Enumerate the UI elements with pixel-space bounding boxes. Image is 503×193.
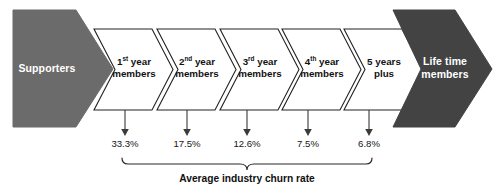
stage-line2-3: members	[229, 68, 291, 80]
funnel-diagram: Supporters Life time members 1st year me…	[0, 0, 503, 193]
stage-line2-5: plus	[353, 68, 415, 80]
churn-value-4: 7.5%	[283, 138, 333, 150]
churn-value-3: 12.6%	[222, 138, 272, 150]
churn-value-5: 6.8%	[344, 138, 394, 150]
stage-line1-3: 3rd year	[229, 56, 291, 68]
stage-tail-5: years	[373, 56, 401, 67]
supporters-label: Supporters	[13, 62, 81, 75]
stage-tail-4: year	[316, 56, 339, 67]
stage-label-4: 4th year members	[291, 56, 353, 80]
stage-label-5: 5 years plus	[353, 56, 415, 80]
stage-line1-5: 5 years	[353, 56, 415, 68]
stage-label-1: 1st year members	[103, 56, 165, 80]
stage-tail-2: year	[192, 56, 215, 67]
churn-arrows	[121, 110, 373, 136]
stage-line2-2: members	[166, 68, 228, 80]
stage-line2-4: members	[291, 68, 353, 80]
lifetime-members-line1: Life time	[412, 55, 478, 68]
diagram-shapes	[0, 0, 503, 193]
lifetime-members-label: Life time members	[412, 55, 478, 81]
stage-line1-2: 2nd year	[166, 56, 228, 68]
stage-line1-4: 4th year	[291, 56, 353, 68]
churn-value-1: 33.3%	[100, 138, 150, 150]
stage-line2-1: members	[103, 68, 165, 80]
stage-line1-1: 1st year	[103, 56, 165, 68]
lifetime-members-line2: members	[412, 68, 478, 81]
churn-value-2: 17.5%	[162, 138, 212, 150]
stage-label-2: 2nd year members	[166, 56, 228, 80]
brace	[122, 158, 372, 170]
brace-caption: Average industry churn rate	[122, 173, 372, 185]
stage-tail-3: year	[254, 56, 277, 67]
stage-label-3: 3rd year members	[229, 56, 291, 80]
stage-tail-1: year	[128, 56, 151, 67]
